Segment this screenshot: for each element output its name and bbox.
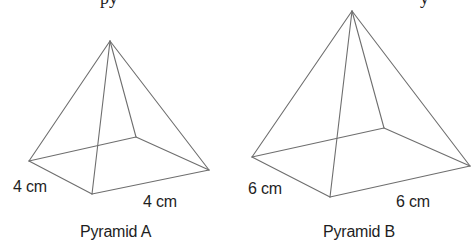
pyramid-edge <box>352 11 384 128</box>
pyramid-a-right-side-label: 4 cm <box>143 194 177 210</box>
pyramid-drawings <box>0 0 471 252</box>
pyramid-a-caption: Pyramid A <box>80 224 151 240</box>
pyramid-edge <box>252 128 384 157</box>
pyramid-edge <box>110 41 136 137</box>
pyramid-b-wireframe <box>252 11 470 197</box>
pyramid-b-left-side-label: 6 cm <box>248 181 282 197</box>
pyramid-edge <box>110 41 209 170</box>
pyramid-a-left-side-label: 4 cm <box>13 179 47 195</box>
pyramid-edge <box>29 137 136 161</box>
pyramid-comparison-figure: py y 4 cm 4 cm Pyramid A 6 cm 6 cm Pyram… <box>0 0 471 252</box>
pyramid-edge <box>92 170 209 194</box>
pyramid-edge <box>136 137 209 170</box>
pyramid-edge <box>352 11 470 166</box>
pyramid-b-right-side-label: 6 cm <box>396 194 430 210</box>
pyramid-a-wireframe <box>29 41 209 194</box>
pyramid-edge <box>384 128 470 166</box>
pyramid-b-caption: Pyramid B <box>323 224 395 240</box>
